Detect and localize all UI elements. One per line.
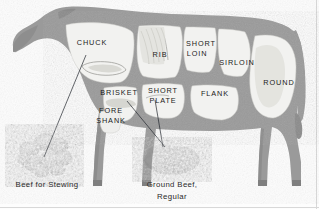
cut-label-sirloin: SIRLOIN (219, 58, 255, 67)
cut-label-round: ROUND (263, 78, 294, 87)
cut-label-fore-shank-line2: SHANK (96, 116, 126, 125)
hoof-rear-right (292, 180, 301, 186)
cut-label-brisket: BRISKET (100, 88, 138, 97)
hoof-front-left (93, 180, 102, 186)
beef-cuts-diagram: CHUCK RIB SHORT LOIN SIRLOIN ROUND BRISK… (0, 0, 319, 209)
product-label-beef-for-stewing: Beef for Stewing (16, 180, 79, 189)
round-shade (255, 45, 285, 107)
cut-label-short-plate-line2: PLATE (149, 96, 176, 105)
cut-label-fore-shank-line1: FORE (99, 106, 123, 115)
product-label-ground-beef-line2: Regular (157, 192, 187, 201)
cut-label-short-plate-line1: SHORT (148, 86, 178, 95)
cut-region-chuck (66, 23, 134, 83)
hoof-rear-left (258, 180, 267, 186)
cut-label-rib: RIB (153, 50, 168, 59)
cut-label-short-loin-line2: LOIN (187, 49, 208, 58)
cut-label-short-loin-line1: SHORT (186, 39, 216, 48)
beef-for-stewing-image (17, 133, 73, 178)
cut-region-sirloin (218, 29, 250, 76)
diagram-canvas: CHUCK RIB SHORT LOIN SIRLOIN ROUND BRISK… (0, 0, 319, 209)
cut-label-chuck: CHUCK (77, 38, 107, 47)
cut-label-flank: FLANK (201, 89, 229, 98)
ground-beef-image (144, 144, 200, 175)
product-label-ground-beef-line1: Ground Beef, (147, 180, 198, 189)
product-labels: Beef for Stewing Ground Beef, Regular (16, 180, 198, 201)
